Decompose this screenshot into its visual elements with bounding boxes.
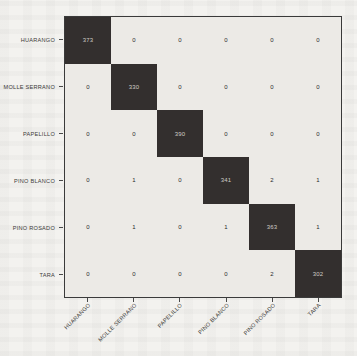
matrix-cell: 1: [111, 204, 157, 251]
matrix-cell: 0: [157, 64, 203, 111]
matrix-cell: 302: [295, 250, 341, 297]
y-axis-tick-mark: [59, 180, 63, 181]
matrix-cell: 0: [157, 250, 203, 297]
matrix-cell: 0: [157, 17, 203, 64]
matrix-cell: 1: [111, 157, 157, 204]
matrix-cell: 330: [111, 64, 157, 111]
matrix-cell: 0: [249, 64, 295, 111]
matrix-cell: 0: [295, 17, 341, 64]
matrix-cell: 390: [157, 110, 203, 157]
matrix-cell: 341: [203, 157, 249, 204]
matrix-cell: 2: [249, 157, 295, 204]
x-axis-tick-labels: HUARANGO MOLLE SERRANO PAPELILLO PINO BL…: [64, 300, 342, 356]
matrix-cell: 2: [249, 250, 295, 297]
y-axis-tick-label-pino-blanco: PINO BLANCO: [0, 157, 60, 204]
confusion-matrix-figure: HUARANGO MOLLE SERRANO PAPELILLO PINO BL…: [0, 0, 357, 356]
matrix-cell: 1: [203, 204, 249, 251]
matrix-grid: 373 0 0 0 0 0 0 330 0 0 0 0 0 0 390 0 0 …: [65, 17, 341, 297]
matrix-cell: 0: [65, 250, 111, 297]
y-axis-tick-mark: [59, 39, 63, 40]
x-axis-tick-label-molle-serrano: MOLLE SERRANO: [97, 302, 138, 343]
y-axis-tick-label-tara: TARA: [0, 251, 60, 298]
y-axis-tick-labels: HUARANGO MOLLE SERRANO PAPELILLO PINO BL…: [0, 16, 60, 298]
matrix-cell: 1: [295, 204, 341, 251]
y-axis-tick-label-papelillo: PAPELILLO: [0, 110, 60, 157]
y-axis-tick-label-huarango: HUARANGO: [0, 16, 60, 63]
x-axis-tick-label-papelillo: PAPELILLO: [156, 302, 183, 329]
x-axis-tick-label-pino-blanco: PINO BLANCO: [197, 302, 230, 335]
matrix-cell: 1: [295, 157, 341, 204]
y-axis-tick-label-molle-serrano: MOLLE SERRANO: [0, 63, 60, 110]
matrix-cell: 373: [65, 17, 111, 64]
matrix-cell: 0: [65, 157, 111, 204]
y-axis-tick-label-pino-rosado: PINO ROSADO: [0, 204, 60, 251]
matrix-cell: 0: [203, 64, 249, 111]
y-axis-tick-mark: [59, 86, 63, 87]
y-axis-tick-mark: [59, 227, 63, 228]
y-axis-tick-mark: [59, 133, 63, 134]
matrix-cell: 0: [203, 17, 249, 64]
x-axis-tick-label-pino-rosado: PINO ROSADO: [242, 302, 276, 336]
matrix-cell: 0: [65, 64, 111, 111]
matrix-cell: 0: [111, 250, 157, 297]
matrix-cell: 0: [203, 110, 249, 157]
matrix-cell: 0: [295, 64, 341, 111]
matrix-cell: 0: [111, 110, 157, 157]
matrix-cell: 0: [111, 17, 157, 64]
matrix-cell: 0: [65, 110, 111, 157]
x-axis-tick-label-huarango: HUARANGO: [63, 302, 92, 331]
matrix-cell: 0: [157, 157, 203, 204]
matrix-cell: 0: [65, 204, 111, 251]
matrix-cell: 0: [249, 110, 295, 157]
matrix-cell: 0: [203, 250, 249, 297]
matrix-cell: 0: [249, 17, 295, 64]
matrix-plot-area: 373 0 0 0 0 0 0 330 0 0 0 0 0 0 390 0 0 …: [64, 16, 342, 298]
matrix-cell: 363: [249, 204, 295, 251]
matrix-cell: 0: [157, 204, 203, 251]
y-axis-tick-mark: [59, 274, 63, 275]
matrix-cell: 0: [295, 110, 341, 157]
x-axis-tick-label-tara: TARA: [307, 302, 322, 317]
